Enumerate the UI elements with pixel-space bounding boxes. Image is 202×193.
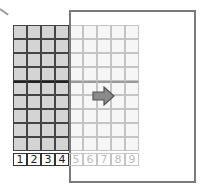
grid-cell bbox=[13, 95, 27, 109]
grid-cell bbox=[55, 81, 69, 95]
grid-cell bbox=[27, 109, 41, 123]
grid-cell bbox=[27, 53, 41, 67]
number-label: 4 bbox=[55, 153, 69, 166]
grid-cell bbox=[27, 39, 41, 53]
number-label: 3 bbox=[41, 153, 55, 166]
corner-line bbox=[0, 8, 9, 15]
grid-cell bbox=[41, 109, 55, 123]
number-label: 9 bbox=[125, 153, 139, 166]
grid-cell bbox=[41, 67, 55, 81]
grid-cell bbox=[13, 39, 27, 53]
number-label: 5 bbox=[69, 153, 83, 166]
grid-cell bbox=[13, 25, 27, 39]
grid-cell bbox=[41, 53, 55, 67]
grid-cell bbox=[13, 109, 27, 123]
grid-cell bbox=[27, 123, 41, 137]
grid-cell bbox=[55, 123, 69, 137]
grid-cell bbox=[13, 123, 27, 137]
number-label: 8 bbox=[111, 153, 125, 166]
grid-cell bbox=[41, 81, 55, 95]
number-label: 7 bbox=[97, 153, 111, 166]
grid-cell bbox=[27, 95, 41, 109]
grid-cell bbox=[13, 67, 27, 81]
grid-cell bbox=[41, 25, 55, 39]
grid-cell bbox=[41, 95, 55, 109]
grid-cell bbox=[55, 53, 69, 67]
number-label: 1 bbox=[13, 153, 27, 166]
number-label: 6 bbox=[83, 153, 97, 166]
grid-cell bbox=[27, 67, 41, 81]
grid-cell bbox=[13, 81, 27, 95]
grid-cell bbox=[41, 123, 55, 137]
grid-cell bbox=[55, 39, 69, 53]
grid-cell bbox=[13, 53, 27, 67]
grid-cell bbox=[27, 137, 41, 151]
grid-cell bbox=[13, 137, 27, 151]
grid-cell bbox=[55, 137, 69, 151]
grid-cell bbox=[55, 67, 69, 81]
number-label: 2 bbox=[27, 153, 41, 166]
grid-cell bbox=[55, 109, 69, 123]
grid-cell bbox=[55, 25, 69, 39]
arrow-right-icon bbox=[92, 86, 116, 106]
grid-cell bbox=[27, 81, 41, 95]
grid-cell bbox=[41, 39, 55, 53]
grid-cell bbox=[55, 95, 69, 109]
grid-cell bbox=[41, 137, 55, 151]
grid-cell bbox=[27, 25, 41, 39]
